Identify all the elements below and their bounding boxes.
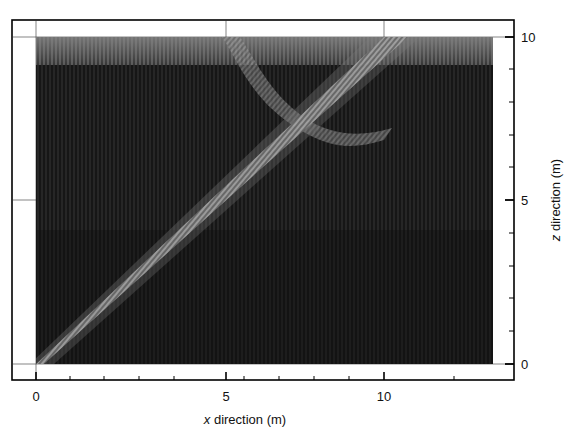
x-tick-label-10: 10 (377, 389, 391, 404)
x-axis-title: x direction (m) (203, 412, 286, 427)
x-tick-label-5: 5 (222, 389, 229, 404)
x-tick-label-0: 0 (32, 389, 39, 404)
x-axis-title-rest: direction (m) (210, 412, 286, 427)
y-tick-label-5: 5 (521, 193, 528, 208)
y-tick-label-0: 0 (521, 357, 528, 372)
y-axis-title: z direction (m) (548, 159, 563, 242)
vector-field (30, 37, 493, 364)
y-axis-title-rest: direction (m) (548, 159, 563, 235)
vector-field-chart: 0 5 10 x direction (m) 10 5 0 z directio… (0, 0, 567, 441)
y-tick-label-10: 10 (521, 30, 535, 45)
